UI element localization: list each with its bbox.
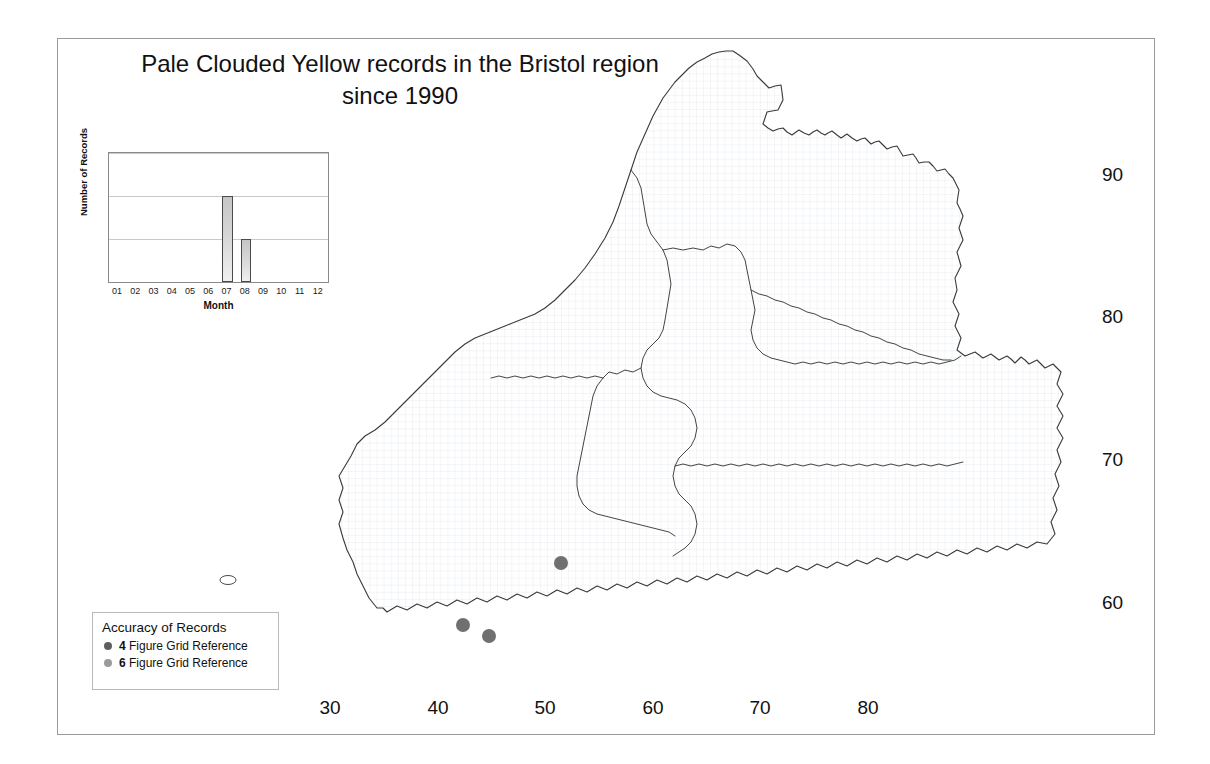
inset-y-tick-mark: [108, 239, 109, 240]
inset-x-tick: 04: [167, 286, 177, 296]
map-y-tick-label: 80: [1102, 306, 1123, 328]
record-marker[interactable]: [482, 629, 496, 643]
map-x-tick-label: 70: [749, 697, 770, 719]
legend-title: Accuracy of Records: [102, 620, 269, 635]
legend-items: 4 Figure Grid Reference6 Figure Grid Ref…: [102, 639, 269, 670]
map-x-tick-label: 80: [857, 697, 878, 719]
legend-marker-icon: [104, 659, 112, 667]
map-x-tick-label: 60: [642, 697, 663, 719]
map-x-tick-label: 30: [319, 697, 340, 719]
inset-y-axis-label: Number of Records: [78, 128, 89, 216]
inset-y-tick-mark: [108, 153, 109, 154]
inset-x-tick: 09: [258, 286, 268, 296]
inset-x-tick: 05: [185, 286, 195, 296]
map-x-tick-label: 50: [534, 697, 555, 719]
inset-bar[interactable]: [222, 196, 233, 282]
inset-x-tick: 12: [313, 286, 323, 296]
inset-x-axis-label: Month: [108, 300, 329, 311]
legend-item[interactable]: 6 Figure Grid Reference: [102, 656, 269, 670]
legend-marker-icon: [104, 642, 112, 650]
inset-y-tick-mark: [108, 282, 109, 283]
inset-bar-chart[interactable]: Number of Records 0123 01020304050607080…: [80, 146, 358, 322]
inset-x-tick: 06: [203, 286, 213, 296]
inset-gridline: [109, 153, 328, 154]
record-marker[interactable]: [554, 556, 568, 570]
inset-x-tick: 10: [276, 286, 286, 296]
title-line-2: since 1990: [70, 80, 730, 112]
inset-plot-area: 0123: [108, 152, 329, 283]
inset-x-tick: 02: [130, 286, 140, 296]
legend-item-label: 4 Figure Grid Reference: [119, 639, 248, 653]
record-marker[interactable]: [456, 618, 470, 632]
inset-gridline: [109, 196, 328, 197]
map-y-tick-label: 90: [1102, 164, 1123, 186]
inset-x-tick: 03: [149, 286, 159, 296]
inset-y-tick-mark: [108, 196, 109, 197]
inset-x-tick: 01: [112, 286, 122, 296]
inset-gridline: [109, 239, 328, 240]
inset-x-tick-labels: 010203040506070809101112: [108, 286, 329, 300]
distribution-map-figure: Pale Clouded Yellow records in the Brist…: [0, 0, 1210, 764]
legend-item[interactable]: 4 Figure Grid Reference: [102, 639, 269, 653]
map-y-tick-label: 60: [1102, 592, 1123, 614]
title-line-1: Pale Clouded Yellow records in the Brist…: [70, 48, 730, 80]
legend-item-label: 6 Figure Grid Reference: [119, 656, 248, 670]
map-legend[interactable]: Accuracy of Records 4 Figure Grid Refere…: [92, 612, 279, 690]
figure-title: Pale Clouded Yellow records in the Brist…: [70, 48, 730, 112]
inset-bar[interactable]: [241, 239, 252, 282]
inset-x-tick: 07: [222, 286, 232, 296]
map-y-tick-label: 70: [1102, 449, 1123, 471]
inset-x-tick: 08: [240, 286, 250, 296]
map-x-tick-label: 40: [427, 697, 448, 719]
inset-x-tick: 11: [295, 286, 304, 296]
